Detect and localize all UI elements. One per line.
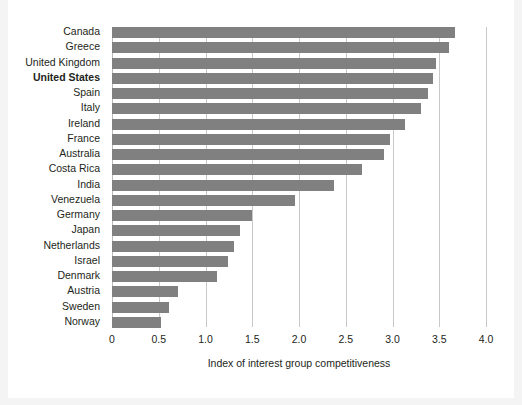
chart-plate: CanadaGreeceUnited KingdomUnited StatesS…: [8, 0, 514, 398]
bar-row: [112, 317, 486, 328]
category-label: Netherlands: [43, 240, 100, 251]
category-label: Sweden: [62, 301, 100, 312]
category-label-column: CanadaGreeceUnited KingdomUnited StatesS…: [8, 27, 106, 327]
bar: [112, 27, 455, 38]
x-tick-label: 0: [109, 333, 115, 345]
x-tick-label: 2.5: [338, 333, 353, 345]
category-label: Israel: [74, 255, 100, 266]
x-tick-label: 4.0: [479, 333, 494, 345]
bar-row: [112, 58, 486, 69]
bar-row: [112, 164, 486, 175]
bar: [112, 225, 240, 236]
bar: [112, 88, 428, 99]
category-label: Ireland: [68, 118, 100, 129]
x-axis-title: Index of interest group competitiveness: [112, 357, 486, 369]
gridline-4.0: [486, 27, 487, 327]
plot-area: [112, 27, 486, 327]
bar: [112, 103, 421, 114]
category-label: Germany: [57, 209, 100, 220]
x-tick-label: 1.5: [245, 333, 260, 345]
bar-row: [112, 180, 486, 191]
category-label: United States: [33, 72, 100, 83]
bar-row: [112, 103, 486, 114]
category-label: Venezuela: [51, 194, 100, 205]
bar: [112, 302, 169, 313]
bar: [112, 42, 449, 53]
bar-row: [112, 286, 486, 297]
bar: [112, 180, 334, 191]
x-tick-label: 2.0: [292, 333, 307, 345]
bar: [112, 195, 295, 206]
x-tick-label: 0.5: [151, 333, 166, 345]
category-label: India: [77, 179, 100, 190]
bar-row: [112, 302, 486, 313]
bar-row: [112, 73, 486, 84]
bar: [112, 134, 390, 145]
bar: [112, 241, 234, 252]
category-label: Costa Rica: [49, 163, 100, 174]
category-label: Austria: [67, 285, 100, 296]
category-label: Greece: [66, 41, 100, 52]
bar: [112, 58, 436, 69]
x-tick-label: 3.0: [385, 333, 400, 345]
bar-row: [112, 134, 486, 145]
bar-row: [112, 271, 486, 282]
bar-row: [112, 119, 486, 130]
bar: [112, 317, 161, 328]
bar-row: [112, 225, 486, 236]
category-label: United Kingdom: [25, 57, 100, 68]
bar-chart: CanadaGreeceUnited KingdomUnited StatesS…: [8, 0, 514, 398]
bar-row: [112, 88, 486, 99]
x-tick-label: 3.5: [432, 333, 447, 345]
category-label: Italy: [81, 102, 100, 113]
x-tick-label: 1.0: [198, 333, 213, 345]
bar: [112, 210, 252, 221]
category-label: France: [67, 133, 100, 144]
category-label: Norway: [64, 316, 100, 327]
bar-row: [112, 27, 486, 38]
bar-row: [112, 210, 486, 221]
category-label: Spain: [73, 87, 100, 98]
category-label: Australia: [59, 148, 100, 159]
bar-row: [112, 42, 486, 53]
bar: [112, 256, 228, 267]
bar: [112, 271, 217, 282]
bar: [112, 164, 362, 175]
bar-row: [112, 256, 486, 267]
bar: [112, 286, 178, 297]
bar-row: [112, 195, 486, 206]
bar: [112, 149, 384, 160]
category-label: Canada: [63, 26, 100, 37]
bar: [112, 119, 405, 130]
x-axis-tick-labels: 00.51.01.52.02.53.03.54.0: [112, 333, 486, 347]
bar-row: [112, 149, 486, 160]
figure-background: CanadaGreeceUnited KingdomUnited StatesS…: [0, 0, 522, 405]
category-label: Japan: [71, 224, 100, 235]
category-label: Denmark: [57, 270, 100, 281]
bar: [112, 73, 433, 84]
bar-row: [112, 241, 486, 252]
